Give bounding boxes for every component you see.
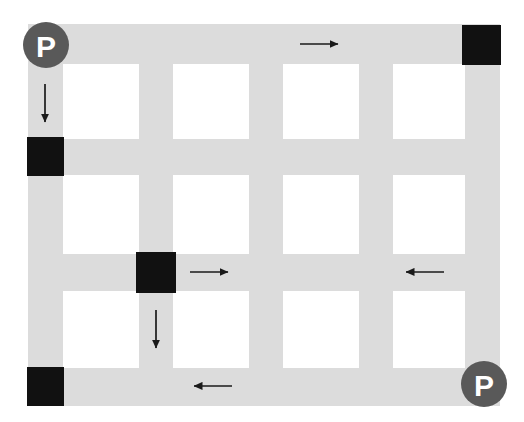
parking-marker-top-left[interactable]: P: [23, 22, 69, 68]
road-v-4: [359, 24, 393, 406]
block-center[interactable]: [136, 252, 176, 293]
road-v-5: [465, 24, 500, 406]
road-v-3: [249, 24, 283, 406]
diagram-canvas: PP: [0, 0, 524, 422]
road-v-2: [139, 24, 173, 406]
parking-marker-bottom-right-label: P: [474, 369, 494, 402]
block-top-right[interactable]: [462, 25, 501, 65]
grid-road-diagram: PP: [0, 0, 524, 422]
road-v-1: [28, 24, 63, 406]
block-left-upper[interactable]: [27, 137, 64, 176]
parking-marker-bottom-right[interactable]: P: [461, 361, 507, 407]
block-bottom-left[interactable]: [27, 367, 64, 406]
parking-marker-top-left-label: P: [36, 30, 56, 63]
